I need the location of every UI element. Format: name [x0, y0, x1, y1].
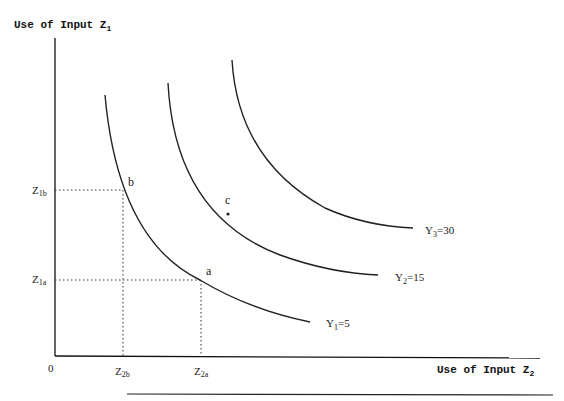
- y-axis-title: Use of Input Z1: [14, 19, 111, 33]
- x-tick-z2a: Z2a: [194, 365, 209, 379]
- label-y3: Y3=30: [425, 224, 455, 239]
- label-y2: Y2=15: [395, 271, 425, 286]
- y-tick-z1b: Z1b: [32, 184, 47, 198]
- point-c-marker: [226, 212, 229, 215]
- x-tick-z2b: Z2b: [115, 365, 130, 379]
- bottom-rule: [127, 394, 553, 395]
- point-label-a: a: [206, 264, 212, 278]
- isoquant-y1: [105, 95, 310, 322]
- label-y1: Y1=5: [326, 317, 350, 332]
- x-axis-title: Use of Input Z2: [437, 364, 534, 378]
- isoquant-y2: [168, 83, 378, 275]
- y-tick-z1a: Z1a: [32, 273, 47, 287]
- origin-label: 0: [48, 362, 54, 374]
- x-axis: [55, 356, 540, 358]
- isoquant-y3: [232, 60, 413, 228]
- point-label-c: c: [225, 193, 230, 207]
- point-label-b: b: [128, 175, 134, 189]
- isoquant-diagram: Use of Input Z1 Y1=5 Y2=15 Y3=30 b a c Z…: [0, 0, 564, 401]
